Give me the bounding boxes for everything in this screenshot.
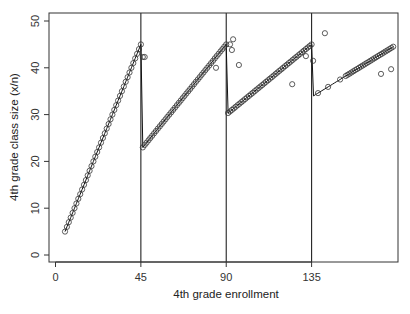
data-point [322,31,327,36]
y-tick-label: 10 [29,202,41,214]
y-tick-label: 30 [29,108,41,120]
data-point [389,67,394,72]
x-axis: 04590135 [52,262,320,283]
data-point [213,65,218,70]
y-tick-label: 20 [29,155,41,167]
data-point [303,54,308,59]
plot-area [62,13,395,262]
data-point [378,71,383,76]
x-tick-label: 0 [52,271,58,283]
y-tick-label: 50 [29,15,41,27]
chart: 04590135 01020304050 4th grade enrollmen… [0,0,410,314]
data-point [290,82,295,87]
plot-frame [49,13,398,262]
data-point [227,42,232,47]
y-axis-label: 4th grade class size (x/n) [8,73,20,201]
predicted-line [65,44,393,231]
data-point [231,37,236,42]
x-axis-label: 4th grade enrollment [173,288,279,300]
x-tick-label: 135 [302,271,320,283]
y-tick-label: 40 [29,62,41,74]
y-tick-label: 0 [29,252,41,258]
x-tick-label: 90 [220,271,232,283]
x-tick-label: 45 [135,271,147,283]
y-axis: 01020304050 [29,15,49,258]
data-point [229,47,234,52]
data-point [236,62,241,67]
